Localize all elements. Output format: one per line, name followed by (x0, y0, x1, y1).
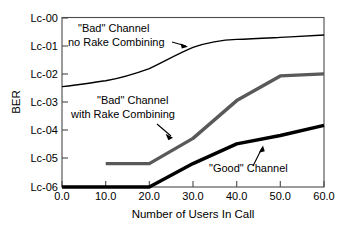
y-axis-title: BER (10, 90, 22, 114)
annotation-bad-with-rake-line2: with Rake Combining (70, 108, 175, 120)
annotation-bad-with-rake: "Bad" Channel with Rake Combining (70, 94, 175, 140)
x-tick-label-4: 40.0 (226, 190, 247, 202)
annotation-bad-no-rake-line2: no Rake Combining (68, 36, 165, 48)
chart-figure: Lc-00 Lc-01 Lc-02 Lc-03 Lc-04 Lc-05 Lc-0… (0, 0, 339, 237)
y-axis-tick-labels: Lc-00 Lc-01 Lc-02 Lc-03 Lc-04 Lc-05 Lc-0… (30, 12, 58, 193)
x-tick-label-1: 10.0 (95, 190, 116, 202)
x-tick-label-5: 50.0 (270, 190, 291, 202)
y-tick-label-1: Lc-01 (30, 40, 58, 52)
annotation-bad-no-rake: "Bad" Channel no Rake Combining (68, 22, 188, 49)
series-good-channel (62, 125, 324, 187)
x-tick-label-0: 0.0 (54, 190, 69, 202)
y-tick-label-3: Lc-03 (30, 96, 58, 108)
annotation-bad-no-rake-line1: "Bad" Channel (78, 22, 149, 34)
x-axis-tick-labels: 0.0 10.0 20.0 30.0 40.0 50.0 60.0 (54, 190, 334, 202)
annotation-bad-no-rake-arrow-icon (181, 44, 188, 49)
y-tick-label-5: Lc-05 (30, 152, 58, 164)
x-tick-label-2: 20.0 (139, 190, 160, 202)
y-tick-label-4: Lc-04 (30, 124, 58, 136)
ber-vs-users-chart: Lc-00 Lc-01 Lc-02 Lc-03 Lc-04 Lc-05 Lc-0… (0, 0, 339, 237)
annotation-bad-with-rake-line1: "Bad" Channel (97, 94, 168, 106)
annotation-good-channel-arrow-icon (259, 146, 265, 153)
x-tick-label-6: 60.0 (313, 190, 334, 202)
y-tick-label-2: Lc-02 (30, 68, 58, 80)
y-tick-label-0: Lc-00 (30, 12, 58, 24)
annotation-good-channel-label: "Good" Channel (209, 162, 288, 174)
x-axis-title: Number of Users In Call (132, 208, 255, 220)
x-tick-label-3: 30.0 (182, 190, 203, 202)
annotation-bad-with-rake-leader (157, 124, 171, 136)
